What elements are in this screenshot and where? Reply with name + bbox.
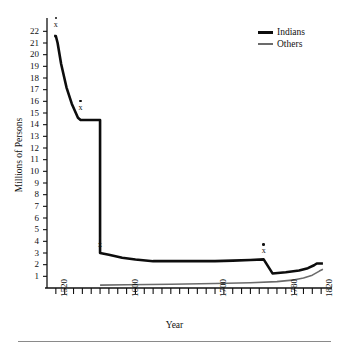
y-tick-label: 11 (23, 155, 39, 164)
chart-figure: 22212019181716151413121110987654321 1520… (0, 0, 349, 349)
y-tick-label: 12 (23, 144, 39, 153)
y-tick-label: 7 (23, 202, 39, 211)
marker-label: x (262, 246, 266, 255)
y-tick-label: 13 (23, 132, 39, 141)
y-tick-label: 16 (23, 97, 39, 106)
x-tick-label: 1780 (290, 279, 299, 297)
legend-item-others: Others (258, 38, 305, 50)
marker-label: x (98, 240, 102, 249)
y-tick-label: 15 (23, 109, 39, 118)
x-tick-label: 1600 (131, 279, 140, 297)
y-tick-label: 5 (23, 225, 39, 234)
legend-label-indians: Indians (277, 27, 305, 37)
y-tick-label: 9 (23, 179, 39, 188)
data-point-marker: x (259, 243, 269, 255)
x-axis-ticks (56, 288, 321, 294)
x-tick-label: 1820 (325, 279, 334, 297)
y-axis-title: Millions of Persons (14, 110, 24, 200)
marker-label: x (79, 103, 83, 112)
x-axis-title: Year (0, 320, 349, 330)
chart-legend: Indians Others (258, 26, 305, 50)
y-tick-label: 20 (23, 50, 39, 59)
y-tick-label: 10 (23, 167, 39, 176)
footer-divider (18, 341, 331, 342)
legend-item-indians: Indians (258, 26, 305, 38)
legend-swatch-indians (258, 31, 273, 34)
data-point-marker: x (76, 100, 86, 112)
y-tick-label: 8 (23, 190, 39, 199)
y-tick-label: 2 (23, 260, 39, 269)
legend-swatch-others (258, 43, 273, 45)
y-tick-label: 1 (23, 272, 39, 281)
y-tick-label: 21 (23, 39, 39, 48)
y-tick-label: 17 (23, 85, 39, 94)
y-tick-label: 6 (23, 214, 39, 223)
y-tick-label: 19 (23, 62, 39, 71)
legend-label-others: Others (277, 39, 302, 49)
axis-lines (45, 18, 332, 288)
y-tick-label: 4 (23, 237, 39, 246)
data-point-marker: x (95, 237, 105, 249)
data-point-marker: x (51, 17, 61, 29)
y-tick-label: 18 (23, 74, 39, 83)
y-tick-label: 3 (23, 249, 39, 258)
marker-label: x (54, 20, 58, 29)
x-tick-label: 1700 (219, 279, 228, 297)
y-tick-label: 14 (23, 120, 39, 129)
y-tick-label: 22 (23, 27, 39, 36)
x-tick-label: 1520 (60, 279, 69, 297)
